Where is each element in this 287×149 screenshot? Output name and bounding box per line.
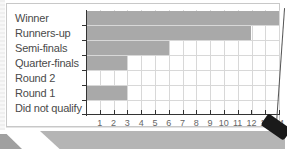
x-tick (169, 110, 170, 115)
category-label-round-2: Round 2 (15, 72, 55, 84)
bar-quarter-finals (87, 56, 127, 70)
bar-runners-up (87, 26, 251, 40)
plot-area: 1234567891011121314 (86, 10, 279, 114)
y-tick (82, 40, 87, 41)
x-tick (183, 110, 184, 115)
y-tick (82, 100, 87, 101)
x-tick-label: 6 (162, 118, 176, 128)
grid-line (86, 70, 279, 71)
x-tick-label: 11 (231, 118, 245, 128)
category-label-runners-up: Runners-up (15, 27, 70, 39)
x-tick-label: 1 (93, 118, 107, 128)
bar-round-1 (87, 86, 127, 100)
x-tick-label: 10 (217, 118, 231, 128)
category-label-semi-finals: Semi-finals (15, 42, 67, 54)
x-tick-label: 7 (176, 118, 190, 128)
x-tick (196, 110, 197, 115)
x-tick (155, 110, 156, 115)
decorative-left-band (0, 0, 5, 130)
category-label-quarter-finals: Quarter-finals (15, 57, 79, 69)
x-tick-label: 2 (107, 118, 121, 128)
x-tick (224, 110, 225, 115)
x-tick (100, 110, 101, 115)
x-tick-label: 9 (203, 118, 217, 128)
x-tick (210, 110, 211, 115)
category-label-did-not-qualify: Did not qualify (15, 102, 82, 114)
decorative-shadow-left (0, 134, 22, 149)
x-tick (127, 110, 128, 115)
decorative-shadow (40, 131, 285, 149)
category-label-round-1: Round 1 (15, 87, 55, 99)
y-tick (82, 70, 87, 71)
x-tick (251, 110, 252, 115)
x-tick-label: 8 (189, 118, 203, 128)
x-tick-label: 3 (120, 118, 134, 128)
x-tick (114, 110, 115, 115)
x-tick-label: 4 (134, 118, 148, 128)
y-tick (82, 25, 87, 26)
x-tick (141, 110, 142, 115)
bar-winner (87, 11, 279, 25)
y-tick (82, 85, 87, 86)
grid-line (86, 100, 279, 101)
x-tick-label: 12 (244, 118, 258, 128)
chart-frame: Winner Runners-up Semi-finals Quarter-fi… (6, 3, 280, 127)
y-tick (82, 55, 87, 56)
bar-semi-finals (87, 41, 169, 55)
x-tick (265, 110, 266, 115)
category-label-winner: Winner (15, 12, 49, 24)
x-tick (238, 110, 239, 115)
x-tick-label: 5 (148, 118, 162, 128)
x-tick (279, 110, 280, 115)
